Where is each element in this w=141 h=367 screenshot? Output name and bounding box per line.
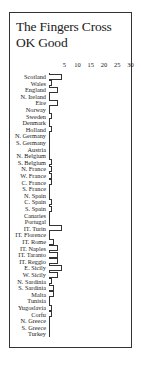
x-axis-ticks: 51015202530: [10, 61, 131, 71]
chart-title: The Fingers Cross OK Good: [16, 19, 112, 51]
chart-title-line2: OK Good: [16, 35, 112, 51]
bar: [49, 126, 52, 132]
bar: [49, 291, 54, 297]
bar: [49, 80, 52, 86]
chart-frame: The Fingers Cross OK Good 51015202530 Sc…: [9, 12, 132, 348]
bar: [49, 272, 58, 278]
bar: [49, 265, 62, 271]
bar: [49, 100, 58, 106]
category-label: Turkey: [28, 330, 46, 337]
x-tick-label: 10: [74, 61, 81, 68]
x-tick-label: 20: [101, 61, 108, 68]
bar: [49, 278, 52, 284]
bar: [49, 258, 58, 264]
bar: [49, 305, 52, 311]
bar: [49, 113, 52, 119]
bar: [49, 206, 52, 212]
bar-row: Turkey: [10, 330, 131, 337]
bar: [49, 311, 52, 317]
x-tick-label: 15: [88, 61, 95, 68]
bar: [49, 179, 52, 185]
bar: [49, 245, 58, 251]
bar: [49, 225, 62, 231]
bar: [49, 239, 54, 245]
bar: [49, 252, 58, 258]
bar: [49, 87, 58, 93]
x-tick-label: 5: [63, 61, 66, 68]
bar: [49, 166, 52, 172]
bar: [49, 173, 52, 179]
bar: [49, 159, 52, 165]
bar: [49, 199, 52, 205]
bar: [49, 285, 54, 291]
x-tick-label: 25: [114, 61, 121, 68]
chart-title-line1: The Fingers Cross: [16, 19, 112, 35]
bar: [49, 74, 62, 80]
x-tick-label: 30: [127, 61, 134, 68]
